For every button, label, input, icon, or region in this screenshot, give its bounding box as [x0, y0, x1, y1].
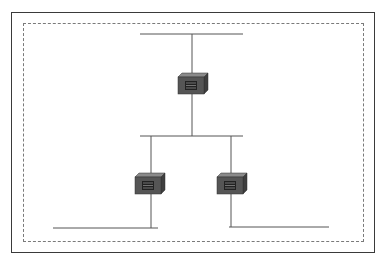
network-links	[151, 34, 231, 228]
router-right-icon	[217, 173, 247, 194]
network-segments	[53, 34, 329, 228]
network-diagram	[0, 0, 384, 265]
network-devices	[135, 73, 247, 194]
router-top-icon	[178, 73, 208, 94]
router-left-icon	[135, 173, 165, 194]
